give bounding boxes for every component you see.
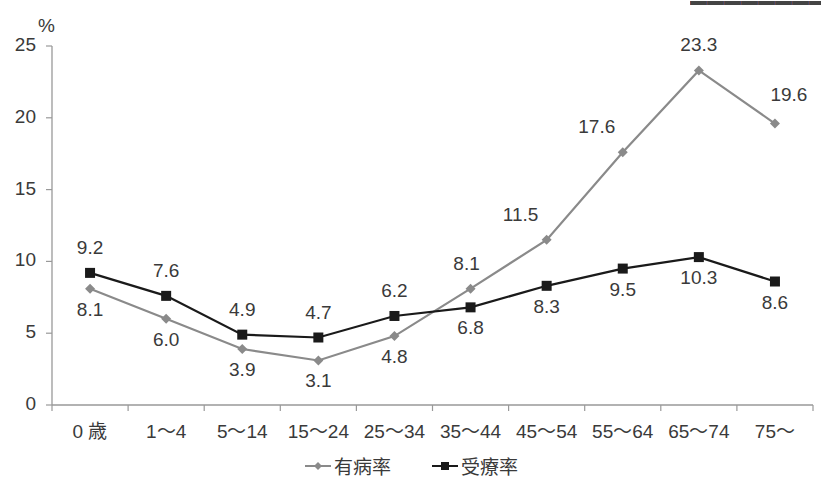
x-tick-label: 75〜 <box>735 416 815 443</box>
plot-area <box>0 0 821 484</box>
square-marker-icon <box>618 264 628 274</box>
data-label: 8.6 <box>750 292 800 314</box>
series-line-prevalence <box>90 70 775 360</box>
data-label: 10.3 <box>674 267 724 289</box>
legend-label-prevalence: 有病率 <box>334 452 391 479</box>
data-label: 4.9 <box>217 299 267 321</box>
diamond-marker-icon <box>85 284 95 294</box>
square-marker-icon <box>694 252 704 262</box>
legend: 有病率 受療率 <box>0 452 821 479</box>
data-label: 3.1 <box>293 370 343 392</box>
x-tick-label: 45〜54 <box>507 416 587 443</box>
data-label: 11.5 <box>496 204 546 226</box>
x-tick-label: 15〜24 <box>278 416 358 443</box>
data-label: 3.9 <box>217 359 267 381</box>
series-line-treatment <box>90 257 775 337</box>
x-tick-label: 35〜44 <box>431 416 511 443</box>
diamond-marker-icon <box>161 314 171 324</box>
square-marker-icon <box>770 277 780 287</box>
square-marker-icon <box>542 281 552 291</box>
x-tick-label: 55〜64 <box>583 416 663 443</box>
data-label: 8.1 <box>65 299 115 321</box>
data-label: 9.2 <box>65 237 115 259</box>
black-square-line-icon <box>431 459 459 473</box>
diamond-marker-icon <box>313 355 323 365</box>
data-label: 19.6 <box>764 84 814 106</box>
diamond-marker-icon <box>389 331 399 341</box>
data-label: 7.6 <box>141 260 191 282</box>
square-marker-icon <box>85 268 95 278</box>
legend-item-treatment: 受療率 <box>431 452 518 479</box>
x-tick-label: 0 歳 <box>50 416 130 443</box>
y-tick-label: 25 <box>6 34 36 56</box>
diamond-marker-icon <box>237 344 247 354</box>
gray-diamond-line-icon <box>304 459 332 473</box>
y-tick-label: 10 <box>6 249 36 271</box>
y-tick-label: 5 <box>6 321 36 343</box>
square-marker-icon <box>389 311 399 321</box>
data-label: 6.2 <box>369 280 419 302</box>
data-label: 17.6 <box>572 116 622 138</box>
data-label: 9.5 <box>598 279 648 301</box>
square-marker-icon <box>161 291 171 301</box>
square-marker-icon <box>313 333 323 343</box>
square-marker-icon <box>237 330 247 340</box>
legend-item-prevalence: 有病率 <box>304 452 391 479</box>
x-tick-label: 5〜14 <box>202 416 282 443</box>
y-tick-label: 15 <box>6 178 36 200</box>
x-tick-label: 25〜34 <box>354 416 434 443</box>
data-label: 8.1 <box>442 253 492 275</box>
data-label: 6.0 <box>141 329 191 351</box>
data-label: 4.7 <box>293 302 343 324</box>
data-label: 23.3 <box>674 34 724 56</box>
legend-label-treatment: 受療率 <box>461 452 518 479</box>
data-label: 8.3 <box>522 296 572 318</box>
data-label: 6.8 <box>446 317 496 339</box>
y-tick-label: 0 <box>6 393 36 415</box>
y-tick-label: 20 <box>6 106 36 128</box>
x-tick-label: 65〜74 <box>659 416 739 443</box>
square-marker-icon <box>466 302 476 312</box>
data-label: 4.8 <box>369 346 419 368</box>
x-tick-label: 1〜4 <box>126 416 206 443</box>
